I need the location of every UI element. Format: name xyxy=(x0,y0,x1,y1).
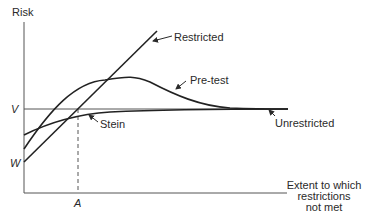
unrestricted-label: Unrestricted xyxy=(275,117,334,129)
w-tick-label: W xyxy=(10,157,20,169)
stein-label: Stein xyxy=(100,118,125,130)
pretest-curve xyxy=(24,77,288,149)
pretest-arrow xyxy=(176,81,186,89)
v-tick-label: V xyxy=(11,103,18,115)
a-tick-label: A xyxy=(74,197,81,209)
pretest-label: Pre-test xyxy=(190,74,229,86)
restricted-arrow xyxy=(153,36,172,41)
stein-arrow xyxy=(89,115,98,122)
restricted-line xyxy=(24,31,157,162)
x-axis-label-line3: not met xyxy=(280,202,368,213)
y-axis-label: Risk xyxy=(12,6,33,18)
restricted-label: Restricted xyxy=(174,31,224,43)
unrestricted-arrow xyxy=(269,110,275,116)
x-axis-label: Extent to which restrictions not met xyxy=(280,180,368,213)
